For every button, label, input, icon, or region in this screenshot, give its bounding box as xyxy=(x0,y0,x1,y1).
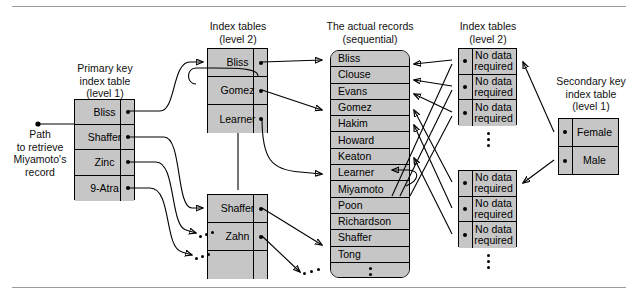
wire-level2-shaffer-to-record xyxy=(262,208,322,245)
wire-record-bliss-to-right-index xyxy=(414,60,452,64)
ellipsis-after-zinc-arrow xyxy=(199,229,219,241)
wire-right-index-upper-fan-1 xyxy=(392,64,452,196)
wire-level2-bliss-to-record xyxy=(262,60,322,62)
figure-canvas: Primary key index table (level 1) Index … xyxy=(0,0,638,297)
wire-right-index-upper-fan-3 xyxy=(410,116,452,196)
wire-level2-zahn xyxy=(262,236,300,272)
wire-right-index-upper-fan-2 xyxy=(400,90,452,196)
connector-wires xyxy=(0,0,638,297)
ellipsis-after-9atra-arrow xyxy=(195,251,215,263)
wire-record-to-right-index-lower-1 xyxy=(414,110,452,182)
wire-secondary-female-to-index xyxy=(523,62,554,132)
wire-primary-shaffer-to-level2 xyxy=(129,137,203,208)
wire-record-to-right-index-3 xyxy=(414,94,452,112)
wire-level2-learner-to-record xyxy=(262,118,322,174)
wire-record-to-right-index-2 xyxy=(414,80,452,86)
wire-primary-9atra xyxy=(129,188,192,255)
wire-secondary-male-to-index xyxy=(523,160,554,183)
wire-level2-gomez-to-record xyxy=(262,90,322,110)
wire-level2-upper-hook xyxy=(189,68,259,84)
ellipsis-after-zahn-arrow xyxy=(303,266,325,278)
wire-miyamoto-curl xyxy=(392,170,417,186)
wire-primary-zinc xyxy=(129,162,196,233)
